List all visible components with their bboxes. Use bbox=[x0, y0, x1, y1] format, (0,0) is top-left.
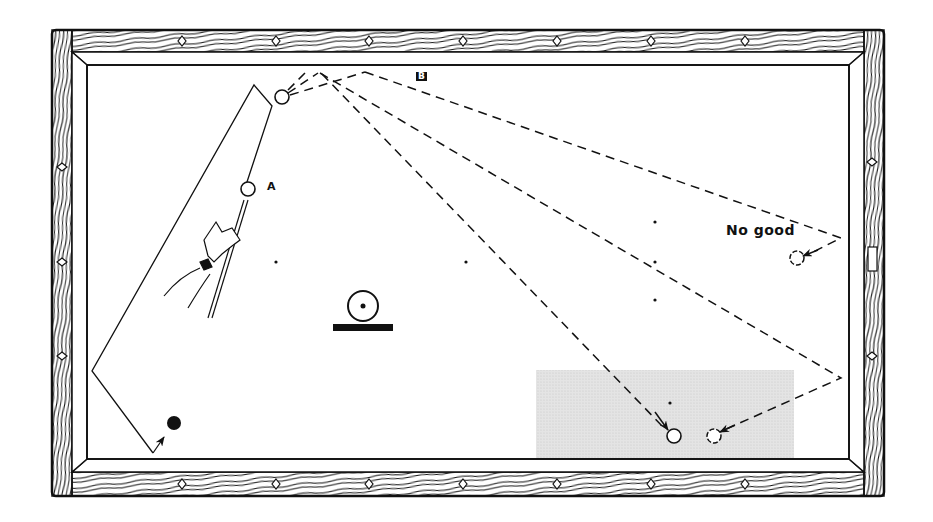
cue-ball-path bbox=[153, 437, 164, 453]
no-good-ball bbox=[790, 251, 804, 265]
arrow-to-no-good-ball bbox=[803, 250, 818, 256]
cue-ball-path-outline bbox=[92, 85, 272, 453]
shaded-target-zone bbox=[536, 370, 794, 458]
head-spot-symbol bbox=[333, 291, 393, 331]
label-path-b: B bbox=[416, 72, 427, 81]
object-ball-top bbox=[275, 90, 289, 104]
label-no-good: No good bbox=[726, 222, 795, 238]
label-ball-a: A bbox=[267, 180, 276, 193]
cue-and-hand bbox=[164, 200, 248, 318]
pocket-ball-2 bbox=[707, 429, 721, 443]
side-pocket-marker bbox=[868, 247, 877, 271]
pocket-ball-1 bbox=[667, 429, 681, 443]
black-ball bbox=[167, 416, 181, 430]
cue-ball-a bbox=[241, 182, 255, 196]
table-drawing bbox=[0, 0, 933, 522]
billiards-diagram: A B No good bbox=[0, 0, 933, 522]
